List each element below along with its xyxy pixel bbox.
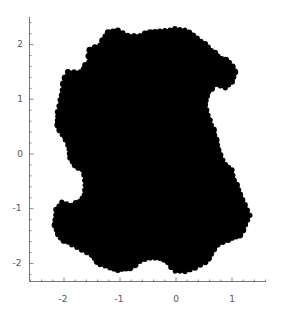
y-tick-label: -1 — [13, 203, 22, 213]
fractal-edge-bump — [65, 201, 69, 205]
fractal-edge-bump — [246, 218, 250, 222]
fractal-edge-bump — [81, 173, 85, 177]
fractal-edge-bump — [220, 240, 225, 245]
fractal-plot: 2 1 0 -1 -2 -2 -1 0 1 — [0, 0, 282, 319]
fractal-edge-bump — [202, 102, 208, 108]
y-tick-label: -2 — [13, 258, 22, 268]
fractal-edge-bump — [63, 138, 67, 142]
fractal-edge-bump — [59, 93, 63, 97]
fractal-edge-bump — [138, 33, 142, 37]
fractal-edge-bump — [115, 27, 121, 33]
fractal-edge-bump — [208, 118, 213, 123]
fractal-edge-bump — [107, 265, 112, 270]
fractal-edge-bump — [220, 157, 225, 162]
fractal-edge-bump — [152, 255, 157, 260]
fractal-edge-bump — [52, 217, 58, 223]
fractal-edge-bump — [229, 167, 234, 172]
fractal-edge-bump — [67, 151, 72, 156]
fractal-edge-bump — [82, 188, 87, 193]
y-tick-label: 2 — [17, 39, 23, 49]
fractal-edge-bump — [213, 133, 217, 137]
fractal-edge-bump — [210, 126, 217, 133]
fractal-edge-bump — [82, 178, 87, 183]
fractal-edge-bump — [74, 245, 79, 250]
fractal-edge-bump — [53, 212, 58, 217]
fractal-edge-bump — [197, 262, 203, 268]
x-tick-label: -2 — [59, 294, 68, 304]
fractal-edge-bump — [132, 33, 136, 37]
fractal-edge-bump — [215, 242, 220, 247]
fractal-edge-bump — [242, 202, 248, 208]
fractal-edge-bump — [120, 30, 125, 35]
fractal-edge-bump — [56, 103, 61, 108]
fractal-edge-bump — [79, 247, 85, 253]
fractal-edge-bump — [62, 75, 69, 82]
fractal-edge-bump — [172, 26, 177, 31]
fractal-edge-bump — [59, 200, 64, 205]
fractal-edge-bump — [182, 269, 187, 274]
fractal-edge-bump — [60, 88, 64, 92]
fractal-edge-bump — [218, 84, 222, 88]
fractal-edge-bump — [82, 192, 88, 198]
fractal-edge-bump — [72, 69, 77, 74]
x-tick-label: 0 — [173, 294, 179, 304]
fractal-edge-bump — [60, 133, 64, 137]
fractal-edge-bump — [103, 264, 107, 268]
fractal-edge-bump — [225, 237, 231, 243]
fractal-edge-bump — [92, 44, 98, 50]
fractal-edge-bump — [192, 265, 198, 271]
fractal-edge-bump — [83, 183, 87, 187]
x-tick-label: 1 — [229, 294, 235, 304]
fractal-edge-bump — [173, 269, 177, 273]
fractal-edge-bump — [86, 60, 90, 64]
x-tick-label: -1 — [115, 294, 124, 304]
fractal-edge-bump — [245, 208, 250, 213]
fractal-edge-bump — [204, 107, 209, 112]
fractal-edge-bump — [157, 255, 163, 261]
fractal-edge-bump — [244, 223, 248, 227]
fractal-edge-bump — [178, 27, 182, 31]
fractal-edge-bump — [157, 29, 163, 35]
fractal-edge-bump — [86, 53, 93, 60]
fractal-edge-bump — [178, 269, 182, 273]
fractal-edge-bump — [143, 258, 147, 262]
fractal-edge-bump — [65, 143, 70, 148]
fractal-edge-bump — [138, 260, 142, 264]
fractal-edge-bump — [67, 147, 71, 151]
fractal-edge-bump — [187, 267, 192, 272]
y-tick-label: 1 — [17, 94, 23, 104]
fractal-edge-bump — [247, 213, 252, 218]
fractal-edge-bump — [55, 109, 61, 115]
fractal-edge-bump — [231, 173, 235, 177]
fractal-edge-bump — [65, 69, 71, 75]
y-tick-label: 0 — [17, 149, 23, 159]
fractal-edge-bump — [206, 113, 210, 117]
fractal-edge-bump — [60, 81, 67, 88]
fractal-edge-bump — [228, 60, 232, 64]
fractal-edge-bump — [223, 85, 228, 90]
fractal-edge-bump — [162, 28, 167, 33]
fractal-edge-bump — [213, 248, 217, 252]
fractal-edge-bump — [125, 33, 130, 38]
fractal-edge-bump — [148, 255, 153, 260]
fractal-edge-bump — [58, 97, 63, 102]
fractal-edge-bump — [217, 152, 223, 158]
fractal-edge-bump — [84, 249, 90, 255]
fractal-edge-bump — [168, 27, 172, 31]
